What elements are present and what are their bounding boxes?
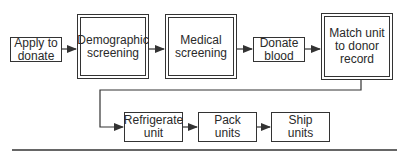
- node-label: Demographic screening: [77, 34, 148, 60]
- node-donate-blood: Donate blood: [253, 37, 305, 62]
- node-label: Apply to donate: [14, 37, 57, 63]
- node-ship-units: Ship units: [271, 112, 330, 142]
- node-match-unit-to-donor-record: Match unit to donor record: [321, 13, 393, 80]
- node-apply-to-donate: Apply to donate: [10, 37, 62, 62]
- node-label: Pack units: [214, 114, 241, 140]
- node-label: Medical screening: [175, 34, 227, 60]
- node-label: Ship units: [288, 114, 313, 140]
- node-label: Match unit to donor record: [329, 27, 384, 66]
- node-demographic-screening: Demographic screening: [77, 14, 149, 79]
- node-pack-units: Pack units: [198, 112, 257, 142]
- node-medical-screening: Medical screening: [165, 14, 237, 79]
- node-refrigerate-unit: Refrigerate unit: [124, 112, 183, 142]
- node-label: Refrigerate unit: [124, 114, 183, 140]
- node-label: Donate blood: [260, 37, 299, 63]
